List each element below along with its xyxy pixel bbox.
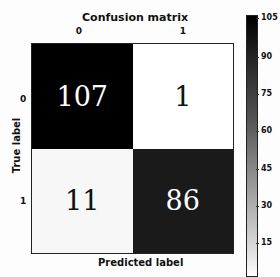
y-tick-0: 0 bbox=[20, 94, 26, 104]
colorbar-tick-105: 105 bbox=[261, 13, 278, 22]
colorbar-tick-30: 30 bbox=[261, 201, 272, 210]
colorbar-tick-60: 60 bbox=[261, 126, 272, 135]
chart-title: Confusion matrix bbox=[82, 11, 188, 24]
cell-1-1: 86 bbox=[133, 149, 234, 254]
colorbar-tick-75: 75 bbox=[261, 89, 272, 98]
x-tick-1: 1 bbox=[173, 26, 193, 36]
colorbar-tick-90: 90 bbox=[261, 52, 272, 61]
x-tick-0: 0 bbox=[69, 26, 89, 36]
cell-0-1: 1 bbox=[133, 44, 234, 149]
y-axis-label: True label bbox=[11, 116, 22, 176]
colorbar-tick-15: 15 bbox=[261, 238, 272, 247]
colorbar-tick-45: 45 bbox=[261, 164, 272, 173]
x-axis-label: Predicted label bbox=[98, 257, 183, 268]
cell-0-0: 107 bbox=[32, 44, 133, 149]
colorbar bbox=[246, 15, 258, 277]
cell-1-0: 11 bbox=[32, 149, 133, 254]
y-tick-1: 1 bbox=[20, 196, 26, 206]
confusion-matrix: 107 1 11 86 bbox=[31, 43, 234, 254]
